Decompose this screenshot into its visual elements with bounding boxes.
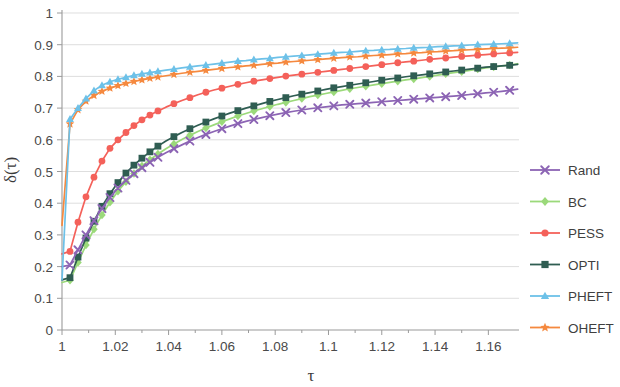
y-tick-label: 0.5 xyxy=(34,165,53,180)
data-point-marker xyxy=(474,65,481,72)
data-point-marker xyxy=(346,65,353,72)
y-tick-label: 0 xyxy=(45,323,53,338)
data-point-marker xyxy=(107,145,114,152)
data-point-marker xyxy=(171,100,178,107)
y-tick-label: 0.8 xyxy=(34,69,53,84)
data-point-marker xyxy=(131,122,138,129)
x-tick-label: 1.04 xyxy=(155,339,182,354)
data-point-marker xyxy=(541,261,548,268)
legend-label: PHEFT xyxy=(568,289,612,304)
legend-label: BC xyxy=(568,195,587,210)
series-oheft xyxy=(62,43,518,225)
legend-item-rand[interactable]: Rand xyxy=(530,163,600,178)
data-point-marker xyxy=(330,67,337,74)
data-point-marker xyxy=(426,56,433,63)
x-tick-label: 1.06 xyxy=(209,339,235,354)
data-point-marker xyxy=(362,63,369,70)
data-point-marker xyxy=(394,75,401,82)
series-rand xyxy=(62,87,518,269)
legend-item-pheft[interactable]: PHEFT xyxy=(530,289,612,304)
data-point-marker xyxy=(250,102,257,109)
data-point-marker xyxy=(139,155,146,162)
data-point-marker xyxy=(147,148,154,155)
performance-profile-chart: 11.021.041.061.081.11.121.141.16 00.10.2… xyxy=(0,0,620,387)
data-point-marker xyxy=(282,94,289,101)
legend-item-oheft[interactable]: OHEFT xyxy=(530,321,614,336)
y-tick-label: 0.1 xyxy=(34,291,53,306)
data-point-marker xyxy=(67,274,74,281)
data-point-marker xyxy=(218,113,225,120)
data-point-marker xyxy=(155,108,162,115)
x-tick-label: 1.16 xyxy=(475,339,501,354)
data-point-marker xyxy=(378,61,385,68)
x-tick-marks xyxy=(62,330,488,335)
data-point-marker xyxy=(540,323,549,332)
data-point-marker xyxy=(202,89,209,96)
x-tick-label: 1.02 xyxy=(102,339,128,354)
data-point-marker xyxy=(442,69,449,76)
y-tick-label: 1 xyxy=(45,6,53,21)
series-line-pheft xyxy=(62,43,518,280)
data-point-marker xyxy=(314,69,321,76)
data-point-marker xyxy=(171,133,178,140)
x-tick-label: 1.08 xyxy=(262,339,288,354)
data-point-marker xyxy=(147,112,154,119)
data-point-marker xyxy=(442,55,449,62)
legend-label: Rand xyxy=(568,163,600,178)
x-tick-label: 1.14 xyxy=(422,339,449,354)
legend-label: PESS xyxy=(568,226,604,241)
data-point-marker xyxy=(266,75,273,82)
data-point-marker xyxy=(90,87,98,94)
data-point-marker xyxy=(123,129,130,136)
data-point-marker xyxy=(187,125,194,132)
legend-item-opti[interactable]: OPTI xyxy=(530,258,600,273)
x-axis-title: τ xyxy=(308,366,315,385)
data-point-marker xyxy=(75,219,82,226)
data-point-marker xyxy=(250,78,257,85)
legend-label: OHEFT xyxy=(568,321,614,336)
y-axis-title: δ(τ) xyxy=(1,157,20,183)
data-point-marker xyxy=(218,85,225,92)
data-point-marker xyxy=(314,88,321,95)
y-tick-label: 0.9 xyxy=(34,38,53,53)
legend-label: OPTI xyxy=(568,258,600,273)
legend-item-pess[interactable]: PESS xyxy=(530,226,604,241)
chart-canvas: 11.021.041.061.081.11.121.141.16 00.10.2… xyxy=(0,0,620,387)
data-point-marker xyxy=(410,58,417,65)
data-point-marker xyxy=(298,91,305,98)
data-point-marker xyxy=(378,77,385,84)
data-point-marker xyxy=(123,170,130,177)
data-point-marker xyxy=(99,158,106,165)
y-axis-tick-labels: 00.10.20.30.40.50.60.70.80.91 xyxy=(34,6,53,338)
x-tick-label: 1 xyxy=(58,339,66,354)
data-point-marker xyxy=(67,248,74,255)
legend: RandBCPESSOPTIPHEFTOHEFT xyxy=(530,163,614,336)
data-point-marker xyxy=(394,59,401,66)
data-point-marker xyxy=(458,67,465,74)
data-point-marker xyxy=(541,197,549,206)
data-point-marker xyxy=(458,53,465,60)
data-point-marker xyxy=(282,73,289,80)
x-tick-label: 1.1 xyxy=(319,339,338,354)
data-point-marker xyxy=(346,82,353,89)
data-point-marker xyxy=(139,116,146,123)
data-point-marker xyxy=(234,107,241,114)
y-tick-label: 0.6 xyxy=(34,133,53,148)
y-tick-label: 0.4 xyxy=(34,196,53,211)
data-point-marker xyxy=(106,84,115,92)
data-point-marker xyxy=(114,81,123,89)
data-point-marker xyxy=(234,81,241,88)
data-point-marker xyxy=(155,143,162,150)
data-point-marker xyxy=(506,62,513,69)
data-point-marker xyxy=(202,119,209,126)
data-point-marker xyxy=(83,193,90,200)
x-tick-label: 1.12 xyxy=(369,339,395,354)
x-axis-tick-labels: 11.021.041.061.081.11.121.141.16 xyxy=(58,339,501,354)
y-tick-label: 0.3 xyxy=(34,228,53,243)
data-point-marker xyxy=(541,229,548,236)
data-point-marker xyxy=(131,162,138,169)
data-point-marker xyxy=(187,94,194,101)
data-point-marker xyxy=(266,98,273,105)
legend-item-bc[interactable]: BC xyxy=(530,195,587,210)
data-point-marker xyxy=(426,70,433,77)
